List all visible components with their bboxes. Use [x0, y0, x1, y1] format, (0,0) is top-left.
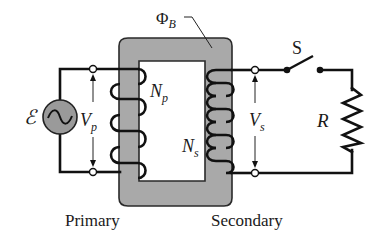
resistor-label: R	[316, 110, 329, 131]
primary-terminal-bottom	[90, 169, 97, 176]
primary-voltage-indicator: Vp	[80, 74, 97, 167]
secondary-voltage-indicator: Vs	[249, 75, 265, 168]
transformer-diagram: ΦB ℰ Vp Np	[0, 0, 386, 242]
svg-text:ΦB: ΦB	[156, 9, 176, 31]
primary-terminal-top	[90, 66, 97, 73]
ac-source: ℰ	[24, 100, 77, 134]
switch: S	[284, 38, 324, 73]
secondary-terminal-bottom	[252, 170, 259, 177]
svg-text:Vs: Vs	[249, 110, 265, 134]
svg-text:Ns: Ns	[181, 136, 199, 160]
switch-label: S	[292, 38, 302, 58]
primary-caption: Primary	[65, 211, 120, 230]
secondary-terminal-top	[252, 67, 259, 74]
secondary-caption: Secondary	[211, 211, 283, 230]
load-resistor: R	[316, 88, 361, 152]
emf-label: ℰ	[24, 106, 38, 128]
svg-text:Vp: Vp	[80, 110, 97, 134]
svg-text:Np: Np	[149, 81, 168, 105]
